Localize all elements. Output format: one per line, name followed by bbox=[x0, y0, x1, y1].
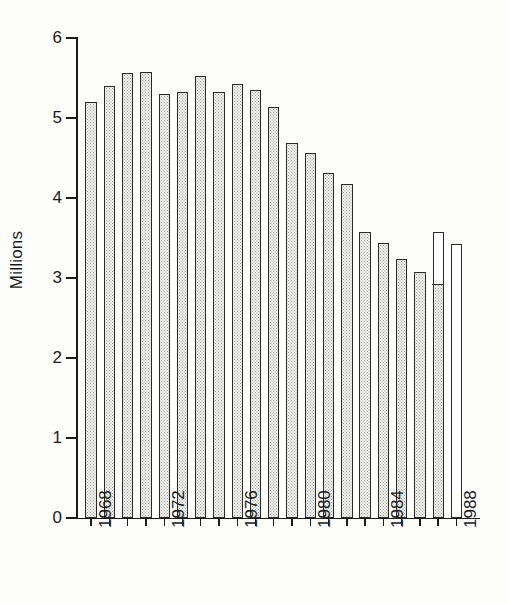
plot-area bbox=[78, 38, 478, 518]
y-axis-tick-label-container: 4 bbox=[36, 189, 62, 207]
x-axis-tick bbox=[237, 519, 238, 526]
y-axis-tick bbox=[66, 277, 77, 278]
bar bbox=[85, 102, 96, 518]
bar bbox=[305, 153, 316, 518]
x-axis-tick bbox=[419, 519, 420, 526]
x-axis-tick bbox=[109, 519, 110, 526]
y-axis-tick-label: 2 bbox=[40, 349, 62, 366]
bar bbox=[359, 232, 370, 518]
bar bbox=[286, 143, 297, 518]
x-axis-tick bbox=[90, 519, 91, 526]
y-axis-tick bbox=[66, 37, 77, 38]
x-axis-tick bbox=[200, 519, 201, 526]
x-axis-tick-label-container: 1968 bbox=[82, 528, 100, 590]
x-axis-tick bbox=[328, 519, 329, 526]
x-axis-tick-label-container: 1988 bbox=[447, 528, 465, 590]
x-axis-tick-label: 1972 bbox=[170, 490, 187, 528]
y-axis-tick bbox=[66, 117, 77, 118]
y-axis-tick-label: 1 bbox=[40, 429, 62, 446]
bar bbox=[177, 92, 188, 518]
x-axis-tick bbox=[456, 519, 457, 526]
bar bbox=[140, 72, 151, 518]
x-axis-tick-label-container: 1984 bbox=[374, 528, 392, 590]
y-axis-tick bbox=[66, 437, 77, 438]
y-axis-tick-label-container: 3 bbox=[36, 269, 62, 287]
x-axis-tick bbox=[310, 519, 311, 526]
y-axis-tick-label-container: 6 bbox=[36, 29, 62, 47]
y-axis-tick bbox=[66, 517, 77, 518]
bar-chart-figure: Millions 0123456 19681972197619801984198… bbox=[0, 0, 508, 604]
y-axis-tick-label: 4 bbox=[40, 189, 62, 206]
bar-segment-divider bbox=[432, 284, 444, 285]
x-axis-tick-label: 1976 bbox=[243, 490, 260, 528]
x-axis-tick-label: 1988 bbox=[462, 490, 479, 528]
x-axis-tick bbox=[164, 519, 165, 526]
bar bbox=[268, 107, 279, 518]
x-axis-tick bbox=[218, 519, 219, 526]
bar bbox=[414, 272, 425, 518]
y-axis-tick bbox=[66, 357, 77, 358]
y-axis-tick-label: 6 bbox=[40, 29, 62, 46]
y-axis-title: Millions bbox=[7, 231, 27, 289]
x-axis-tick-label: 1980 bbox=[316, 490, 333, 528]
bar bbox=[323, 173, 334, 518]
y-axis-tick bbox=[66, 197, 77, 198]
bar bbox=[122, 73, 133, 518]
bar bbox=[104, 86, 115, 518]
x-axis-tick-label-container: 1972 bbox=[155, 528, 173, 590]
bar bbox=[232, 84, 243, 518]
x-axis-tick bbox=[255, 519, 256, 526]
x-axis-tick-label-container: 1980 bbox=[301, 528, 319, 590]
y-axis-tick-label-container: 2 bbox=[36, 349, 62, 367]
y-axis-tick-label-container: 1 bbox=[36, 429, 62, 447]
bar bbox=[378, 243, 389, 518]
bar bbox=[341, 184, 352, 518]
bar bbox=[159, 94, 170, 518]
y-axis-tick-label: 3 bbox=[40, 269, 62, 286]
y-axis-title-container: Millions bbox=[0, 0, 34, 520]
x-axis-tick bbox=[145, 519, 146, 526]
bar bbox=[250, 90, 261, 518]
x-axis-tick bbox=[127, 519, 128, 526]
bar bbox=[433, 232, 444, 518]
x-axis-tick-label: 1968 bbox=[97, 490, 114, 528]
bar-upper-segment bbox=[434, 233, 443, 285]
bar bbox=[213, 92, 224, 518]
x-axis-tick bbox=[346, 519, 347, 526]
x-axis-tick bbox=[437, 519, 438, 526]
x-axis-tick bbox=[182, 519, 183, 526]
y-axis-tick-label-container: 5 bbox=[36, 109, 62, 127]
x-axis-tick-label-container: 1976 bbox=[228, 528, 246, 590]
x-axis-tick bbox=[364, 519, 365, 526]
y-axis-tick-label: 5 bbox=[40, 109, 62, 126]
x-axis-tick bbox=[383, 519, 384, 526]
x-axis-tick bbox=[401, 519, 402, 526]
y-axis-tick-label-container: 0 bbox=[36, 509, 62, 527]
x-axis-tick bbox=[273, 519, 274, 526]
bar bbox=[396, 259, 407, 518]
y-axis-tick-label: 0 bbox=[40, 509, 62, 526]
bar bbox=[195, 76, 206, 518]
bar bbox=[451, 244, 462, 518]
x-axis-tick bbox=[291, 519, 292, 526]
x-axis-tick-label: 1984 bbox=[389, 490, 406, 528]
